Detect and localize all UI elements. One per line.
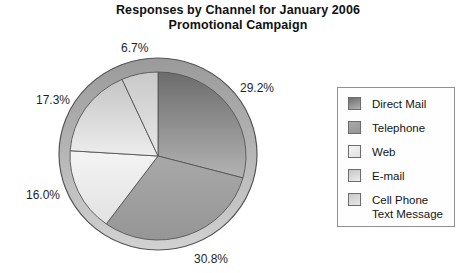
legend-item-cell-phone: Cell Phone Text Message (348, 193, 446, 221)
slice-label-cell-phone: 6.7% (121, 42, 148, 55)
legend-swatch-cell-phone (348, 193, 361, 206)
legend-swatch-web (348, 145, 361, 158)
legend-swatch-direct-mail (348, 97, 361, 110)
legend-item-direct-mail: Direct Mail (348, 97, 446, 111)
legend-label-email: E-mail (372, 169, 405, 183)
legend: Direct Mail Telephone Web E-mail Cell Ph… (337, 87, 455, 227)
legend-item-web: Web (348, 145, 446, 159)
legend-item-telephone: Telephone (348, 121, 446, 135)
legend-label-direct-mail: Direct Mail (372, 97, 426, 111)
legend-item-email: E-mail (348, 169, 446, 183)
legend-label-web: Web (372, 145, 395, 159)
slice-label-email: 17.3% (36, 94, 70, 107)
slice-label-telephone: 30.8% (194, 253, 228, 266)
slice-label-web: 16.0% (26, 189, 60, 202)
legend-swatch-telephone (348, 121, 361, 134)
chart-figure: Responses by Channel for January 2006 Pr… (0, 0, 476, 273)
legend-swatch-email (348, 169, 361, 182)
slice-label-direct-mail: 29.2% (240, 82, 274, 95)
legend-label-cell-phone: Cell Phone Text Message (372, 193, 446, 221)
legend-label-telephone: Telephone (372, 121, 425, 135)
